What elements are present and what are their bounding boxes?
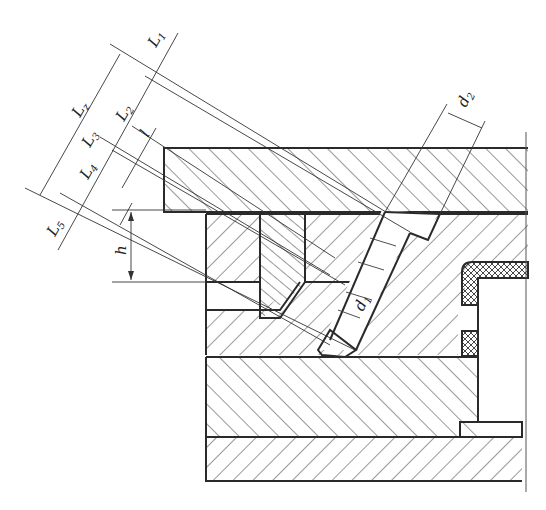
label-L3: L3 xyxy=(77,127,102,152)
label-d2: d2 xyxy=(453,88,477,111)
dimension-line-main xyxy=(40,33,178,250)
label-Lz: Lz xyxy=(67,97,92,121)
mold-cross-section-drawing: L1 Lz L2 L3 l L4 L5 h d1 d2 xyxy=(0,0,546,510)
label-l: l xyxy=(136,127,154,140)
label-L1: L1 xyxy=(143,27,168,52)
top-plate xyxy=(164,148,528,212)
label-L2: L2 xyxy=(111,101,136,126)
label-h: h xyxy=(112,245,130,255)
label-L5: L5 xyxy=(42,216,67,241)
cavity-opening xyxy=(480,280,526,422)
support-plate xyxy=(206,357,522,437)
